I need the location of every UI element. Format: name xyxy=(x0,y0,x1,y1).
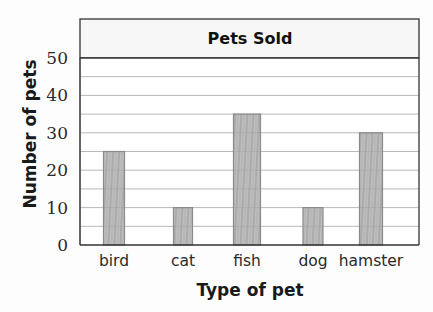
bar-bird xyxy=(104,152,125,246)
bar-dog xyxy=(303,208,323,245)
x-axis-title: Type of pet xyxy=(196,280,303,300)
bar-hamster xyxy=(360,133,383,245)
y-tick-label: 50 xyxy=(46,48,68,68)
y-tick-label: 10 xyxy=(46,198,68,218)
y-tick-label: 0 xyxy=(57,235,68,255)
chart-title: Pets Sold xyxy=(208,29,293,48)
x-tick-label: hamster xyxy=(339,252,404,270)
bar-fish xyxy=(234,114,261,245)
x-tick-label: cat xyxy=(171,252,195,270)
plot-area: 01020304050birdcatfishdoghamster xyxy=(46,48,419,270)
y-tick-label: 40 xyxy=(46,85,68,105)
y-tick-label: 30 xyxy=(46,123,68,143)
bar-cat xyxy=(174,208,193,245)
x-tick-label: bird xyxy=(99,252,129,270)
y-axis-title: Number of pets xyxy=(20,60,40,209)
chart-title-box: Pets Sold xyxy=(80,19,419,58)
x-tick-label: dog xyxy=(298,252,327,270)
x-tick-label: fish xyxy=(233,252,261,270)
y-tick-label: 20 xyxy=(46,160,68,180)
bar-chart: Pets Sold 01020304050birdcatfishdoghamst… xyxy=(0,0,433,312)
